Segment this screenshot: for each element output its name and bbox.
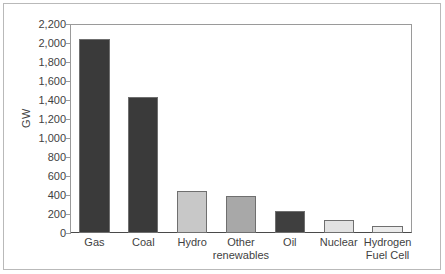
x-axis-category-label-line: Fuel Cell <box>359 249 416 262</box>
bar <box>128 97 158 233</box>
x-axis-category-label: HydrogenFuel Cell <box>359 236 416 262</box>
x-axis-category-labels: GasCoalHydroOtherrenewablesOilNuclearHyd… <box>70 236 412 274</box>
y-axis-tick-label: 2,000 <box>22 38 66 49</box>
bar <box>324 220 354 233</box>
y-axis-tick-label: 200 <box>22 209 66 220</box>
bar <box>372 226 402 233</box>
y-axis-tick-label: 600 <box>22 171 66 182</box>
y-axis-tick-label: 1,600 <box>22 76 66 87</box>
bar-chart-figure: GW 02004006008001,0001,2001,4001,6001,80… <box>0 0 445 274</box>
y-axis-tick-label: 1,800 <box>22 57 66 68</box>
y-axis-tick-label: 0 <box>22 228 66 239</box>
y-axis-tick-label: 1,200 <box>22 114 66 125</box>
y-axis-tick-label: 1,400 <box>22 95 66 106</box>
bar <box>177 191 207 233</box>
y-axis-tick-label: 2,200 <box>22 19 66 30</box>
x-axis-category-label-line: renewables <box>213 249 270 262</box>
y-axis-tick-label: 400 <box>22 190 66 201</box>
y-axis-tick-label: 800 <box>22 152 66 163</box>
bar <box>79 39 109 233</box>
x-axis-category-label-line: Hydrogen <box>359 236 416 249</box>
y-axis-tick-labels: 02004006008001,0001,2001,4001,6001,8002,… <box>18 0 66 274</box>
bar <box>275 211 305 233</box>
bar-series <box>70 24 412 233</box>
bar <box>226 196 256 233</box>
y-axis-tick-mark <box>66 233 70 234</box>
y-axis-tick-label: 1,000 <box>22 133 66 144</box>
